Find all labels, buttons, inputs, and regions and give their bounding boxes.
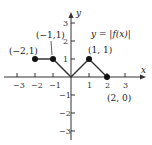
equation-label: y = |f(x)| (90, 29, 131, 40)
x-tick-label: 3 (123, 81, 128, 90)
leader-line (51, 41, 52, 55)
y-tick-label: 1 (63, 55, 68, 64)
point-label: (2, 0) (107, 93, 131, 103)
x-axis-arrow-icon (140, 75, 146, 80)
y-axis-label: y (75, 8, 82, 18)
graph: −3 −2 −1 1 2 3 3 2 1 −1 −2 −3 x y (−2,1)… (0, 0, 152, 145)
x-axis-label: x (141, 65, 146, 75)
x-tick-label: −2 (31, 81, 43, 90)
point-label: (−2,1) (9, 46, 38, 56)
point-label: (1, 1) (88, 45, 112, 55)
y-tick-label: −3 (59, 127, 71, 136)
point-label: (−1,1) (36, 30, 65, 40)
point-neg2-1 (32, 56, 38, 62)
x-tick-label: 2 (105, 81, 110, 90)
y-axis-arrow-icon (69, 12, 74, 18)
y-tick-label: −1 (59, 91, 71, 100)
point-1-1 (86, 56, 92, 62)
point-neg1-1 (50, 56, 56, 62)
x-tick-label: −3 (13, 81, 25, 90)
x-tick-label: −1 (49, 81, 61, 90)
y-tick-label: 3 (63, 19, 68, 28)
x-tick-label: 1 (87, 81, 92, 90)
point-2-0 (104, 74, 110, 80)
y-tick-label: −2 (59, 109, 71, 118)
